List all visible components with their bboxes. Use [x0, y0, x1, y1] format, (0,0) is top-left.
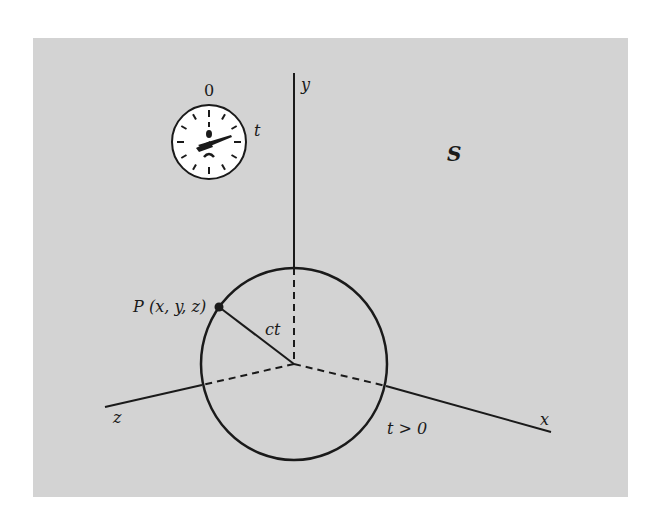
z-axis-label: z [112, 408, 122, 427]
clock-zero-label: 0 [204, 81, 214, 100]
point-p-coords: (x, y, z) [149, 297, 206, 316]
point-p-name: P [132, 297, 144, 316]
frame-label: S [447, 142, 461, 166]
y-axis-label: y [300, 75, 311, 94]
clock-icon [172, 105, 246, 179]
point-p-marker [215, 303, 224, 312]
light-sphere-diagram: 0 t S y x z P (x, y, z) ct t > 0 [0, 0, 656, 517]
time-condition-label: t > 0 [387, 419, 427, 438]
x-axis-label: x [540, 410, 549, 429]
clock-time-label: t [254, 121, 261, 140]
radius-label: ct [265, 320, 281, 339]
